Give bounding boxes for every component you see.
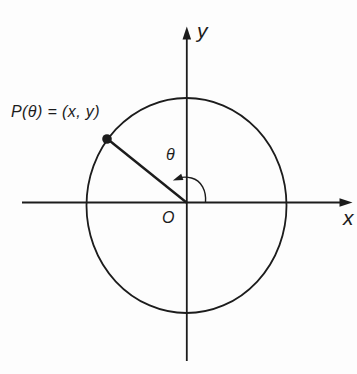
point-p-dot — [102, 134, 112, 144]
origin-label: O — [162, 210, 174, 226]
unit-circle-figure: P(θ) = (x, y) θ O y x — [0, 0, 357, 374]
x-axis-label: x — [343, 207, 354, 228]
figure-canvas — [0, 0, 357, 374]
y-axis-arrowhead — [183, 27, 192, 40]
point-coordinates-label: P(θ) = (x, y) — [11, 104, 100, 120]
angle-theta-label: θ — [166, 147, 175, 163]
angle-arc-arrowhead — [173, 174, 184, 181]
y-axis-label: y — [197, 20, 208, 41]
